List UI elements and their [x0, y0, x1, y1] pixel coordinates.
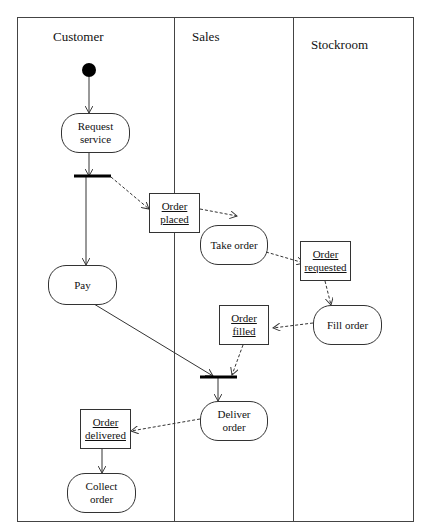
node-text: Order [85, 416, 126, 429]
node-text: filled [231, 325, 257, 338]
node-text: Fill order [327, 319, 368, 332]
node-text: service [78, 133, 113, 146]
activity-deliver-order: Deliverorder [200, 401, 268, 441]
edge-order-placed-to-take-order [200, 209, 237, 216]
edge-deliver-to-order-delivered [131, 419, 200, 431]
node-text: order [86, 493, 118, 506]
node-text: Order [304, 248, 346, 261]
node-text: placed [160, 213, 189, 226]
initial-node [82, 63, 96, 77]
node-text: Take order [210, 239, 257, 252]
node-text: Request [78, 120, 113, 133]
edge-pay-to-join [94, 304, 213, 376]
activity-request-service: Requestservice [61, 113, 130, 153]
object-order-delivered: Orderdelivered [80, 409, 131, 449]
activity-fill-order: Fill order [313, 305, 382, 345]
edge-order-filled-to-join [232, 345, 243, 375]
edge-take-order-to-order-requested [266, 252, 304, 263]
lane-label-stockroom: Stockroom [311, 37, 368, 53]
activity-pay: Pay [48, 265, 117, 305]
node-text: requested [304, 261, 346, 274]
fork-bar [74, 175, 111, 178]
object-order-placed: Orderplaced [149, 193, 200, 233]
node-text: Order [231, 312, 257, 325]
node-text: Pay [74, 279, 91, 292]
join-bar [200, 376, 237, 379]
object-order-requested: Orderrequested [300, 241, 351, 281]
node-text: delivered [85, 429, 126, 442]
edge-fork-to-order-placed [111, 177, 149, 209]
lane-label-customer: Customer [53, 29, 104, 45]
node-text: Collect [86, 480, 118, 493]
lane-label-sales: Sales [192, 29, 219, 45]
node-text: Deliver [218, 408, 251, 421]
object-order-filled: Orderfilled [219, 305, 269, 345]
activity-take-order: Take order [200, 225, 268, 265]
activity-collect-order: Collectorder [67, 473, 136, 513]
edge-order-requested-to-fill-order [325, 281, 331, 305]
node-text: Order [160, 200, 189, 213]
node-text: order [218, 421, 251, 434]
